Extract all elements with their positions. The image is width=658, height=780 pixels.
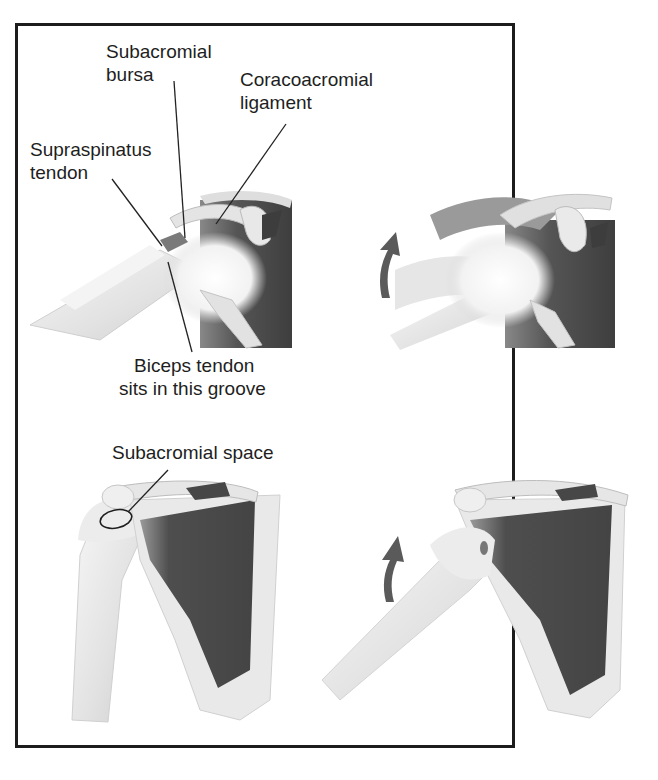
shoulder-anatomy-illustration [0,0,658,780]
panel-bottom-right [322,480,628,718]
panel-top-left [30,191,292,348]
label-coracoacromial-line1: Coracoacromial [240,68,373,91]
panel-bottom-left [72,481,280,722]
label-subacromial-bursa-line1: Subacromial [106,40,212,63]
panel-top-right [390,194,615,350]
label-subacromial-space: Subacromial space [112,441,274,464]
upward-rotation-arrow [382,536,404,602]
label-supraspinatus-line2: tendon [30,161,88,184]
label-biceps-line1: Biceps tendon [134,354,254,377]
label-subacromial-bursa-line2: bursa [106,63,154,86]
label-coracoacromial-line2: ligament [240,91,312,114]
label-supraspinatus-line1: Supraspinatus [30,138,151,161]
label-biceps-line2: sits in this groove [119,377,266,400]
